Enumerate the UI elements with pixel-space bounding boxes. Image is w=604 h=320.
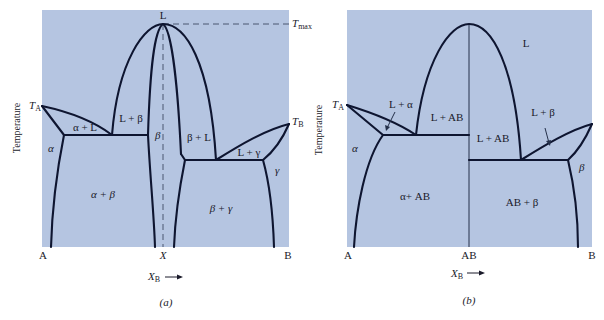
region-alpha-b: α bbox=[352, 142, 358, 154]
region-gamma: γ bbox=[275, 164, 280, 176]
x-axis-arrowhead-icon bbox=[177, 275, 183, 280]
region-alpha: α bbox=[48, 142, 54, 154]
tb-label: TB bbox=[292, 115, 303, 129]
region-l-plus-ab-right: L + AB bbox=[477, 132, 510, 144]
y-axis-label-b: Temperature bbox=[313, 104, 324, 155]
x-axis-label-b: XB bbox=[450, 267, 463, 281]
region-alpha-plus-l: α + L bbox=[73, 121, 97, 133]
region-l-plus-ab-left: L + AB bbox=[431, 111, 464, 123]
x-axis-label: XB bbox=[147, 270, 160, 284]
ta-label-b: TA bbox=[332, 98, 344, 112]
region-liquid-b: L bbox=[523, 37, 530, 49]
tmax-label: Tmax bbox=[292, 17, 312, 31]
region-l-plus-gamma: L + γ bbox=[238, 146, 261, 158]
x-tick-ab: AB bbox=[461, 249, 476, 261]
region-beta-plus-gamma: β + γ bbox=[209, 202, 233, 214]
region-l-plus-beta: L + β bbox=[119, 112, 143, 124]
region-beta: β bbox=[154, 129, 161, 141]
phase-diagrams-figure: L α + L L + β β + L L + γ α β γ α + β β … bbox=[0, 0, 604, 320]
panel-a: L α + L L + β β + L L + γ α β γ α + β β … bbox=[11, 9, 312, 309]
x-tick-b-b: B bbox=[588, 249, 595, 261]
y-axis-label: Temperature bbox=[11, 102, 22, 153]
region-alpha-plus-ab: α+ AB bbox=[400, 190, 430, 202]
region-l-plus-alpha: L + α bbox=[389, 98, 413, 110]
x-tick-a: A bbox=[39, 249, 47, 261]
region-alpha-plus-beta: α + β bbox=[91, 188, 116, 200]
x-axis-arrowhead-icon-b bbox=[479, 271, 485, 276]
x-tick-b: B bbox=[284, 249, 291, 261]
caption-a: (a) bbox=[160, 296, 173, 309]
ta-label: TA bbox=[29, 99, 41, 113]
panel-b: L L + α L + AB L + AB L + β α β α+ AB AB… bbox=[313, 10, 596, 307]
region-l-plus-beta: L + β bbox=[531, 106, 555, 118]
region-liquid: L bbox=[160, 9, 167, 21]
region-ab-plus-beta: AB + β bbox=[506, 196, 539, 208]
region-beta-plus-l: β + L bbox=[187, 131, 211, 143]
x-tick-x: X bbox=[159, 249, 168, 261]
caption-b: (b) bbox=[463, 294, 476, 307]
region-beta-b: β bbox=[578, 161, 585, 173]
x-tick-a-b: A bbox=[344, 249, 352, 261]
